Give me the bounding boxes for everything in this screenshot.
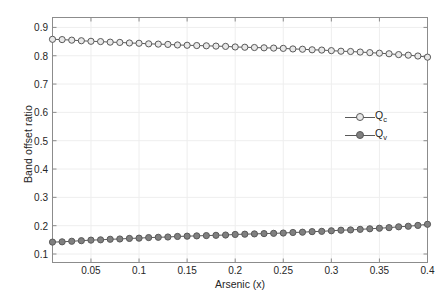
data-point-marker bbox=[376, 225, 382, 231]
data-point-marker bbox=[415, 53, 421, 59]
data-point-marker bbox=[126, 235, 132, 241]
data-point-marker bbox=[347, 227, 353, 233]
data-point-marker bbox=[146, 234, 152, 240]
data-point-marker bbox=[117, 236, 123, 242]
data-point-marker bbox=[396, 52, 402, 58]
data-point-marker bbox=[232, 44, 238, 50]
data-point-marker bbox=[165, 234, 171, 240]
data-point-marker bbox=[184, 233, 190, 239]
plot-area bbox=[0, 0, 448, 300]
data-point-marker bbox=[271, 230, 277, 236]
data-point-marker bbox=[271, 45, 277, 51]
data-point-marker bbox=[213, 232, 219, 238]
data-point-marker bbox=[174, 233, 180, 239]
data-point-marker bbox=[367, 226, 373, 232]
data-point-marker bbox=[242, 44, 248, 50]
data-point-marker bbox=[146, 41, 152, 47]
legend-label-qv: Qv bbox=[375, 127, 387, 142]
data-point-marker bbox=[299, 229, 305, 235]
data-point-marker bbox=[347, 48, 353, 54]
data-point-marker bbox=[424, 54, 430, 60]
data-point-marker bbox=[338, 227, 344, 233]
data-point-marker bbox=[69, 238, 75, 244]
legend-label-qc: Qc bbox=[375, 109, 387, 124]
data-point-marker bbox=[174, 42, 180, 48]
data-point-marker bbox=[203, 232, 209, 238]
data-point-marker bbox=[165, 41, 171, 47]
data-point-marker bbox=[59, 36, 65, 42]
data-point-marker bbox=[309, 229, 315, 235]
data-point-marker bbox=[78, 238, 84, 244]
series-q-c bbox=[49, 36, 430, 60]
data-point-marker bbox=[376, 50, 382, 56]
data-point-marker bbox=[194, 42, 200, 48]
data-point-marker bbox=[367, 50, 373, 56]
data-point-marker bbox=[251, 231, 257, 237]
data-point-marker bbox=[107, 39, 113, 45]
data-point-marker bbox=[194, 233, 200, 239]
data-point-marker bbox=[222, 232, 228, 238]
data-point-marker bbox=[357, 49, 363, 55]
data-point-marker bbox=[280, 230, 286, 236]
data-point-marker bbox=[251, 44, 257, 50]
data-point-marker bbox=[290, 46, 296, 52]
data-point-marker bbox=[261, 45, 267, 51]
data-point-marker bbox=[203, 43, 209, 49]
data-point-marker bbox=[88, 237, 94, 243]
figure: Band offset ratio 0.10.20.30.40.50.60.70… bbox=[0, 0, 448, 300]
data-point-marker bbox=[49, 36, 55, 42]
data-point-marker bbox=[136, 40, 142, 46]
data-point-marker bbox=[136, 235, 142, 241]
data-point-marker bbox=[386, 51, 392, 57]
data-point-marker bbox=[405, 52, 411, 58]
legend-marker-filled-circle-icon bbox=[345, 128, 375, 142]
data-point-marker bbox=[222, 43, 228, 49]
data-point-marker bbox=[49, 239, 55, 245]
data-point-marker bbox=[107, 236, 113, 242]
data-point-marker bbox=[213, 43, 219, 49]
legend: Qc Qv bbox=[345, 108, 407, 144]
data-point-marker bbox=[309, 47, 315, 53]
data-point-marker bbox=[117, 39, 123, 45]
data-point-marker bbox=[424, 221, 430, 227]
data-point-marker bbox=[290, 229, 296, 235]
data-point-marker bbox=[280, 45, 286, 51]
data-point-marker bbox=[155, 234, 161, 240]
data-point-marker bbox=[328, 228, 334, 234]
data-point-marker bbox=[232, 231, 238, 237]
data-point-marker bbox=[386, 225, 392, 231]
data-point-marker bbox=[78, 38, 84, 44]
data-point-marker bbox=[328, 48, 334, 54]
data-point-marker bbox=[88, 38, 94, 44]
legend-item-qv: Qv bbox=[345, 126, 407, 144]
data-point-marker bbox=[299, 46, 305, 52]
data-point-marker bbox=[59, 239, 65, 245]
series-q-v bbox=[49, 221, 430, 245]
data-point-marker bbox=[69, 37, 75, 43]
legend-marker-open-circle-icon bbox=[345, 110, 375, 124]
data-point-marker bbox=[319, 228, 325, 234]
data-point-marker bbox=[97, 38, 103, 44]
data-point-marker bbox=[338, 48, 344, 54]
data-point-marker bbox=[97, 237, 103, 243]
data-point-marker bbox=[396, 224, 402, 230]
data-point-marker bbox=[319, 47, 325, 53]
data-point-marker bbox=[242, 231, 248, 237]
data-point-marker bbox=[405, 223, 411, 229]
data-point-marker bbox=[126, 40, 132, 46]
data-point-marker bbox=[155, 41, 161, 47]
legend-item-qc: Qc bbox=[345, 108, 407, 126]
data-point-marker bbox=[357, 226, 363, 232]
data-point-marker bbox=[415, 222, 421, 228]
data-point-marker bbox=[184, 42, 190, 48]
data-point-marker bbox=[261, 231, 267, 237]
